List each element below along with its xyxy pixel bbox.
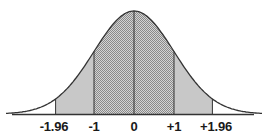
tick-label-neg-1: -1	[88, 119, 99, 134]
normal-distribution-chart	[0, 0, 263, 138]
tick-label-neg-1-96: -1.96	[40, 119, 69, 134]
tick-label-0: 0	[130, 119, 137, 134]
tick-label-pos-1-96: +1.96	[200, 119, 232, 134]
tick-label-pos-1: +1	[167, 119, 181, 134]
